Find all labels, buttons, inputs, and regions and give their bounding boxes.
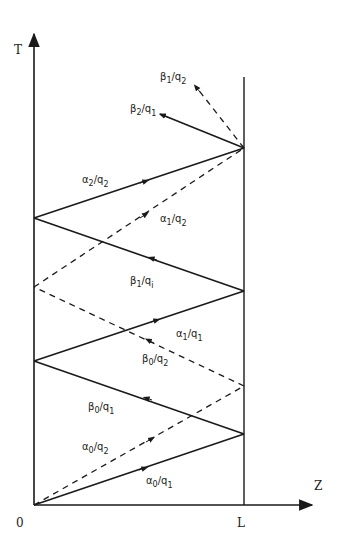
label-beta1-qi: β1/qi [130, 275, 153, 290]
solid-wave-q1 [34, 114, 244, 505]
label-alpha1-q1: α1/q1 [176, 328, 203, 343]
dashed-wave-q2 [34, 88, 244, 505]
label-alpha0-q2: α0/q2 [82, 441, 109, 456]
origin-label: 0 [16, 516, 24, 530]
bounce-diagram: T Z 0 L α0/q1 α0/q2 β0/q1 β0/q2 α1/q1 β1… [0, 0, 344, 552]
label-alpha1-q2: α1/q2 [160, 213, 187, 228]
z-axis-label: Z [314, 479, 322, 493]
label-alpha2-q2: α2/q2 [82, 174, 109, 189]
l-label: L [237, 516, 245, 530]
label-beta1-q2: β1/q2 [160, 71, 186, 86]
label-beta2-q1: β2/q1 [130, 103, 156, 118]
t-axis-label: T [14, 43, 22, 57]
label-beta0-q2: β0/q2 [142, 353, 168, 368]
solid-direction-arrows [139, 115, 170, 470]
label-beta0-q1: β0/q1 [88, 401, 114, 416]
label-alpha0-q1: α0/q1 [146, 475, 173, 490]
